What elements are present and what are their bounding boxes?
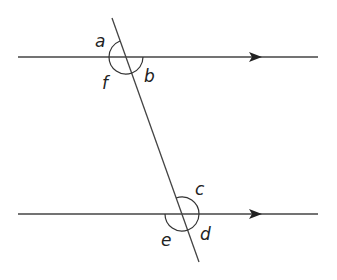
transversal-line xyxy=(112,18,199,262)
angle-label-a: a xyxy=(95,31,105,51)
angle-label-d: d xyxy=(200,224,211,244)
angle-label-b: b xyxy=(144,66,155,86)
angle-a-arc xyxy=(109,41,120,57)
parallel-lines-diagram: a f b c d e xyxy=(0,0,337,280)
angle-b-arc xyxy=(132,57,143,73)
angle-label-c: c xyxy=(195,179,205,199)
angle-d-arc xyxy=(188,214,199,230)
diagram-canvas: a f b c d e xyxy=(0,0,337,280)
angle-label-e: e xyxy=(161,230,171,250)
angle-label-f: f xyxy=(102,73,111,93)
